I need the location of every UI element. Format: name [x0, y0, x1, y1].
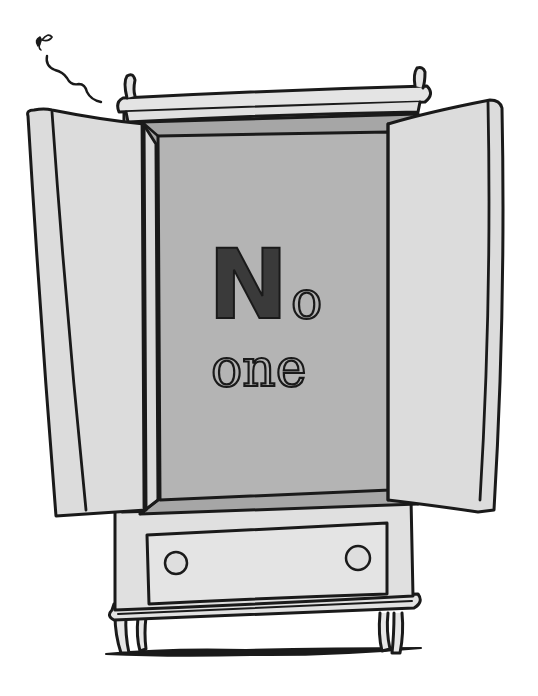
fly-trail — [47, 56, 101, 102]
drawer-knob-right — [346, 546, 370, 570]
right-door[interactable] — [388, 100, 503, 512]
floor-shadow — [106, 648, 421, 656]
headline-second-word: one — [211, 338, 307, 398]
illustration-canvas: N o one — [0, 0, 538, 696]
finial-left — [125, 75, 135, 98]
drawer-knob-left — [165, 552, 187, 574]
headline-first-word-rest: o — [291, 270, 322, 330]
headline-capital-letter: N — [208, 229, 288, 341]
drawer — [147, 523, 387, 604]
left-door[interactable] — [28, 109, 146, 516]
fly-icon — [36, 35, 52, 50]
finial-right — [414, 68, 425, 89]
